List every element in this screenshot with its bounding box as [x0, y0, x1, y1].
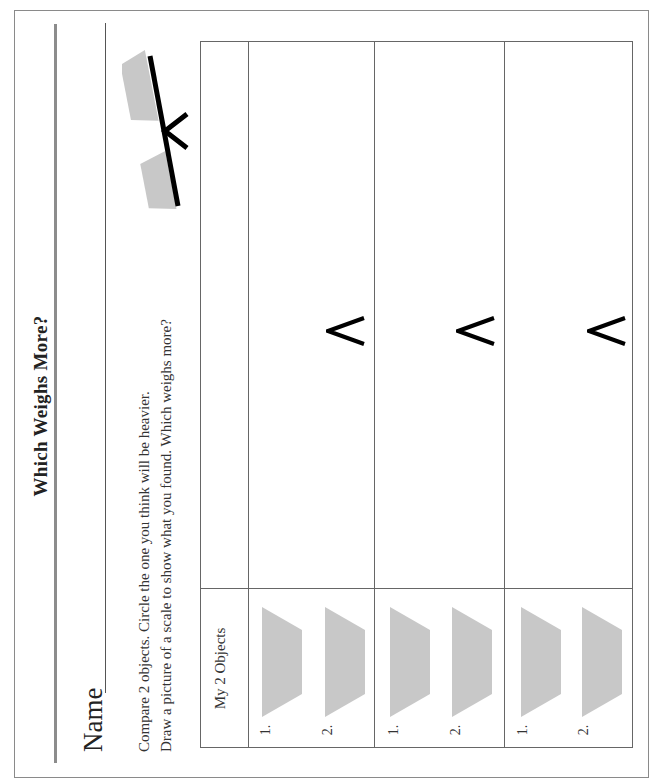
object-1-label: 1. [258, 720, 274, 740]
page-title: Which Weighs More? [30, 30, 52, 782]
object-2-label: 2. [576, 720, 592, 740]
drawing-area-row-3[interactable] [505, 42, 632, 588]
drawing-area-row-1[interactable] [249, 42, 373, 588]
object-2-shape[interactable] [582, 607, 622, 717]
object-2-shape[interactable] [325, 607, 365, 717]
instruction-line-1: Compare 2 objects. Circle the one you th… [136, 391, 153, 752]
instruction-line-2: Draw a picture of a scale to show what y… [158, 319, 175, 752]
objects-column-divider [200, 588, 633, 589]
drawing-area-row-2[interactable] [375, 42, 503, 588]
title-divider [54, 24, 57, 763]
object-1-label: 1. [386, 720, 402, 740]
object-1-label: 1. [515, 720, 531, 740]
object-1-shape[interactable] [390, 607, 430, 717]
worksheet-page: Which Weighs More? Name Compare 2 object… [0, 0, 657, 782]
name-label: Name [80, 688, 107, 752]
balance-scale-icon [122, 42, 196, 212]
object-2-shape[interactable] [452, 607, 492, 717]
object-2-label: 2. [320, 720, 336, 740]
name-field[interactable] [105, 23, 106, 693]
object-1-shape[interactable] [262, 607, 302, 717]
table-header-my-objects: My 2 Objects [212, 589, 229, 748]
object-2-label: 2. [448, 720, 464, 740]
object-1-shape[interactable] [521, 607, 561, 717]
